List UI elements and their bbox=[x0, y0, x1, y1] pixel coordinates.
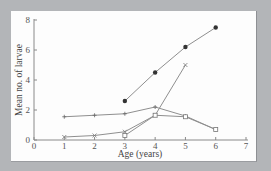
x-tick-label: 1 bbox=[62, 141, 67, 151]
x-axis-label: Age (years) bbox=[118, 149, 163, 160]
filled-circle-marker bbox=[153, 70, 157, 74]
y-tick-label: 0 bbox=[26, 135, 31, 145]
open-square-marker bbox=[123, 134, 127, 138]
open-square-marker bbox=[153, 113, 157, 117]
series-plus bbox=[62, 105, 217, 132]
plus-marker bbox=[93, 113, 97, 117]
filled-circle-marker bbox=[214, 25, 218, 29]
y-axis-label: Mean no. of larvae bbox=[14, 44, 24, 116]
x-tick-label: 6 bbox=[213, 141, 218, 151]
open-square-marker bbox=[183, 115, 187, 119]
y-tick-label: 4 bbox=[26, 75, 31, 85]
y-tick-label: 2 bbox=[26, 105, 31, 115]
series-filled-circle bbox=[123, 25, 218, 103]
x-tick-label: 2 bbox=[92, 141, 97, 151]
x-tick-label: 0 bbox=[32, 141, 37, 151]
series-line bbox=[125, 115, 216, 135]
y-tick-label: 8 bbox=[26, 15, 31, 25]
plus-marker bbox=[62, 115, 66, 119]
filled-circle-marker bbox=[183, 45, 187, 49]
y-tick-label: 6 bbox=[26, 45, 31, 55]
plus-marker bbox=[153, 105, 157, 109]
x-tick-label: 5 bbox=[183, 141, 188, 151]
open-square-marker bbox=[214, 128, 218, 132]
filled-circle-marker bbox=[123, 99, 127, 103]
plus-marker bbox=[123, 112, 127, 116]
series-line bbox=[64, 107, 215, 130]
line-chart: 0123456702468 Age (years) Mean no. of la… bbox=[0, 0, 271, 171]
series-group bbox=[62, 25, 218, 139]
cross-marker bbox=[183, 63, 187, 67]
x-tick-label: 7 bbox=[244, 141, 249, 151]
